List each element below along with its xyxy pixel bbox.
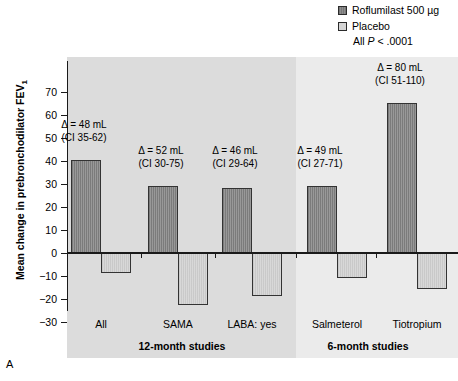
legend-label-placebo: Placebo <box>352 20 390 32</box>
y-tick-10 <box>61 230 67 231</box>
y-tick-label-40: 40 <box>17 156 57 166</box>
group-label-12-month: 12-month studies <box>92 340 272 352</box>
legend-pvalue-note: All P < .0001 <box>338 35 458 48</box>
bar-all-placebo <box>101 252 131 273</box>
y-tick-label-0: 0 <box>17 248 57 258</box>
y-tick-label-30: 30 <box>17 179 57 189</box>
y-tick-label-70: 70 <box>17 87 57 97</box>
y-axis-title-sub: 1 <box>20 80 29 84</box>
y-tick-40 <box>61 161 67 162</box>
chart-legend: Roflumilast 500 µg Placebo All P < .0001 <box>338 3 458 48</box>
panel-background-12-month <box>67 57 296 358</box>
plot-area <box>67 57 458 358</box>
x-axis-baseline <box>67 252 458 254</box>
annotation-tiotropium-ci: (CI 51-110) <box>345 75 455 88</box>
y-tick-20 <box>61 207 67 208</box>
y-tick-minus-20 <box>61 299 67 300</box>
bar-laba-yes-roflumilast <box>222 188 252 253</box>
y-tick-minus-10 <box>61 276 67 277</box>
annotation-all: Δ = 48 mL (CI 35-62) <box>29 119 139 144</box>
y-axis-line <box>67 61 68 311</box>
y-tick-label-10: 10 <box>17 225 57 235</box>
category-label-tiotropium: Tiotropium <box>362 318 458 330</box>
y-tick-70 <box>61 92 67 93</box>
pvalue-symbol: P <box>368 35 375 47</box>
pvalue-prefix: All <box>353 35 368 47</box>
annotation-salmeterol: Δ = 49 mL (CI 27-71) <box>265 145 375 170</box>
y-tick-30 <box>61 184 67 185</box>
group-label-6-month: 6-month studies <box>278 340 458 352</box>
bar-salmeterol-roflumilast <box>307 186 337 253</box>
annotation-tiotropium-delta: Δ = 80 mL <box>345 62 455 75</box>
y-tick-label-minus-10: −10 <box>17 271 57 281</box>
panel-letter: A <box>6 358 13 370</box>
bar-sama-roflumilast <box>148 186 178 253</box>
baseline-tick-1 <box>141 254 142 258</box>
annotation-tiotropium: Δ = 80 mL (CI 51-110) <box>345 62 455 87</box>
bar-sama-placebo <box>178 252 208 305</box>
y-tick-label-minus-20: −20 <box>17 294 57 304</box>
bar-tiotropium-roflumilast <box>387 103 417 253</box>
baseline-tick-3 <box>296 254 297 258</box>
legend-item-roflumilast: Roflumilast 500 µg <box>338 3 458 17</box>
bar-tiotropium-placebo <box>417 252 447 289</box>
bar-all-roflumilast <box>71 160 101 253</box>
legend-item-placebo: Placebo <box>338 19 458 33</box>
baseline-tick-2 <box>215 254 216 258</box>
y-tick-0 <box>61 253 67 254</box>
annotation-salmeterol-delta: Δ = 49 mL <box>265 145 375 158</box>
pvalue-suffix: < .0001 <box>375 35 413 47</box>
legend-swatch-roflumilast <box>338 6 347 15</box>
annotation-salmeterol-ci: (CI 27-71) <box>265 158 375 171</box>
baseline-tick-4 <box>376 254 377 258</box>
bar-salmeterol-placebo <box>337 252 367 278</box>
annotation-all-delta: Δ = 48 mL <box>29 119 139 132</box>
bar-laba-yes-placebo <box>252 252 282 296</box>
legend-swatch-placebo <box>338 22 347 31</box>
y-tick-label-20: 20 <box>17 202 57 212</box>
annotation-all-ci: (CI 35-62) <box>29 132 139 145</box>
legend-label-roflumilast: Roflumilast 500 µg <box>352 4 439 16</box>
y-tick-60 <box>61 115 67 116</box>
